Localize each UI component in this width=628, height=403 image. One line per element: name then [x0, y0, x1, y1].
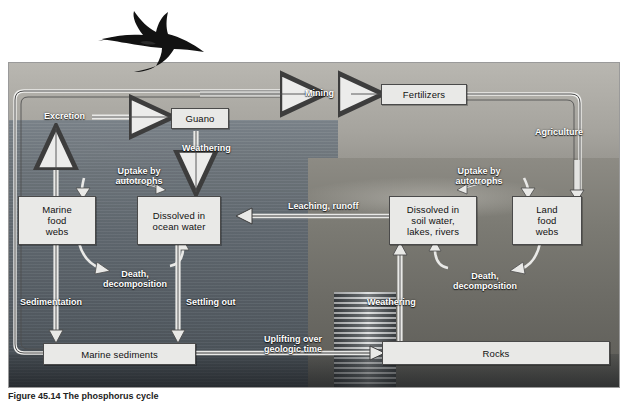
label-settling-out: Settling out	[186, 297, 236, 308]
label-uplifting: Uplifting over geologic time	[243, 323, 343, 355]
node-marine-sediments-label: Marine sediments	[81, 349, 158, 360]
node-marine-sediments[interactable]: Marine sediments	[43, 343, 196, 365]
label-uptake-land-text: Uptake by autotrophs	[456, 166, 503, 187]
label-agriculture-text: Agriculture	[535, 127, 583, 137]
label-agriculture: Agriculture	[535, 127, 583, 138]
label-excretion: Excretion	[44, 111, 85, 122]
label-sedimentation-text: Sedimentation	[20, 297, 82, 307]
label-excretion-text: Excretion	[44, 111, 85, 121]
node-guano[interactable]: Guano	[171, 108, 229, 129]
label-death-marine-text: Death, decomposition	[103, 269, 167, 290]
figure-caption-title: The phosphorus cycle	[63, 391, 159, 401]
label-uptake-land: Uptake by autotrophs	[440, 155, 518, 187]
label-mining: Mining	[305, 88, 334, 99]
label-uptake-marine-text: Uptake by autotrophs	[116, 166, 163, 187]
node-marine-food-webs-label: Marine food webs	[42, 204, 72, 237]
label-sedimentation: Sedimentation	[20, 297, 82, 308]
figure-caption: Figure 45.14 The phosphorus cycle	[8, 391, 308, 403]
label-leaching-runoff-text: Leaching, runoff	[288, 201, 359, 211]
figure-canvas: Guano Fertilizers Marine food webs Disso…	[0, 0, 628, 403]
node-guano-label: Guano	[185, 113, 214, 124]
node-rocks[interactable]: Rocks	[382, 341, 610, 365]
label-death-land: Death, decomposition	[442, 260, 528, 292]
label-weathering-guano: Weathering	[182, 143, 231, 154]
node-fertilizers-label: Fertilizers	[403, 89, 445, 100]
arrow-sedimentation	[49, 243, 63, 343]
label-death-land-text: Death, decomposition	[453, 271, 517, 292]
node-dissolved-ocean-water-label: Dissolved in ocean water	[153, 210, 206, 232]
arrow-weathering-rocks	[393, 242, 407, 341]
node-dissolved-soil-water[interactable]: Dissolved in soil water, lakes, rivers	[389, 196, 477, 245]
label-settling-out-text: Settling out	[186, 297, 236, 307]
node-land-food-webs[interactable]: Land food webs	[512, 196, 582, 245]
label-leaching-runoff: Leaching, runoff	[288, 201, 359, 212]
label-uptake-marine: Uptake by autotrophs	[100, 155, 178, 187]
node-dissolved-ocean-water[interactable]: Dissolved in ocean water	[137, 196, 221, 245]
node-rocks-label: Rocks	[483, 348, 510, 359]
node-dissolved-soil-water-label: Dissolved in soil water, lakes, rivers	[407, 204, 459, 237]
label-uplifting-text: Uplifting over geologic time	[264, 334, 322, 355]
label-death-marine: Death, decomposition	[92, 258, 178, 290]
label-weathering-guano-text: Weathering	[182, 143, 231, 153]
node-fertilizers[interactable]: Fertilizers	[381, 84, 467, 105]
label-mining-text: Mining	[305, 88, 334, 98]
label-weathering-rocks: Weathering	[367, 297, 416, 308]
node-marine-food-webs[interactable]: Marine food webs	[18, 196, 96, 245]
label-weathering-rocks-text: Weathering	[367, 297, 416, 307]
figure-caption-number: Figure 45.14	[8, 391, 61, 401]
node-land-food-webs-label: Land food webs	[536, 204, 559, 237]
